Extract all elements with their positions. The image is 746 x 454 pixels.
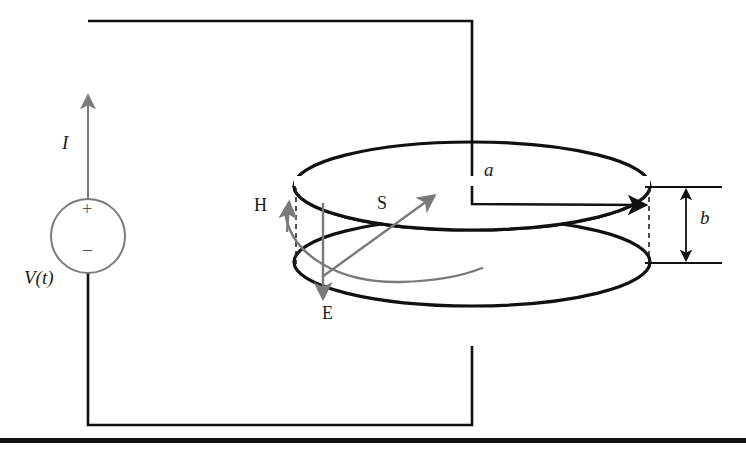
height-label: b [700,208,710,227]
radius-label: a [484,160,494,179]
polarity-plus-label: + [82,200,92,218]
voltage-source-label: V(t) [24,268,54,287]
poynting-vector-label: S [377,194,387,212]
magnetic-field-label: H [254,196,267,214]
wire-top [88,21,472,186]
wire-bottom [88,273,472,425]
polarity-minus-label: – [83,240,92,258]
circuit-diagram-canvas [0,0,746,454]
footer-rule [0,438,746,443]
figure-root: I V(t) + – a b H E S [0,0,746,454]
current-label: I [62,133,68,152]
electric-field-label: E [322,304,333,322]
